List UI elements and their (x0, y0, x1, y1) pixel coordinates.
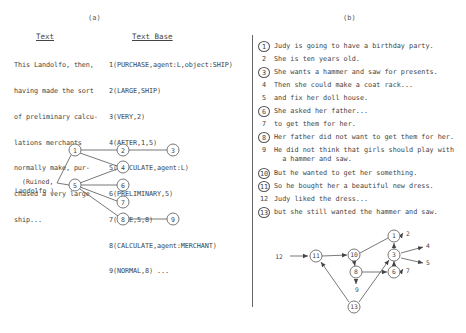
node-1: 1 (73, 147, 77, 155)
root-label-line2: Landolfo ) (15, 187, 54, 195)
sentence-number: 1 (258, 41, 270, 52)
node-5: 5 (73, 182, 77, 190)
sentence-text: So he bought her a beautiful new dress. (274, 182, 434, 190)
sentence-text: She asked her father... (274, 107, 368, 115)
sentence-8: 8Her father did not want to get them for… (258, 131, 454, 143)
sentence-13: 13but she still wanted the hammer and sa… (258, 206, 438, 218)
sentence-text: She is ten years old. (274, 55, 360, 63)
label-9: 9 (355, 286, 359, 293)
sentence-number: 3 (258, 67, 270, 78)
sentence-number: 10 (258, 168, 270, 179)
sentence-number: 11 (258, 181, 270, 192)
sentence-text: Judy is going to have a birthday party. (274, 42, 434, 50)
root-label-line1: (Ruined, (22, 178, 53, 186)
sentence-text: but she still wanted the hammer and saw. (274, 208, 438, 216)
sentence-5: 5and fix her doll house. (258, 92, 368, 104)
sentence-text: Then she could make a coat rack... (274, 81, 413, 89)
sentence-number: 7 (258, 119, 270, 130)
panel-b-label: (b) (343, 14, 356, 22)
node-6: 6 (121, 182, 125, 190)
sentence-text: She wants a hammer and saw for presents. (274, 68, 438, 76)
node-13: 13 (350, 303, 358, 310)
node-8: 8 (354, 268, 358, 275)
node-11: 11 (312, 252, 320, 259)
sentence-7: 7to get them for her. (258, 118, 356, 130)
label-12: 12 (275, 253, 283, 260)
label-2: 2 (406, 230, 410, 237)
sentence-number: 12 (258, 194, 270, 205)
sentence-text: But he wanted to get her something. (274, 169, 417, 177)
node-6: 6 (392, 268, 396, 275)
sentence-number: 6 (258, 106, 270, 117)
sentence-number: 2 (258, 54, 270, 65)
sentence-number: 5 (258, 93, 270, 104)
node-2: 2 (121, 147, 125, 155)
sentence-12: 12Judy liked the dress... (258, 193, 368, 205)
node-8: 8 (121, 216, 125, 224)
sentence-number: 9 (258, 145, 270, 156)
sentence-text: Her father did not want to get them for … (274, 133, 454, 141)
causal-graph-b: 11 10 8 13 1 3 6 12 9 4 5 2 7 (253, 220, 466, 333)
sentence-10: 10But he wanted to get her something. (258, 167, 417, 179)
sentence-text: to get them for her. (274, 120, 356, 128)
sentence-1: 1Judy is going to have a birthday party. (258, 40, 434, 52)
sentence-text: and fix her doll house. (274, 94, 368, 102)
label-7: 7 (406, 267, 410, 274)
node-1: 1 (392, 232, 396, 239)
label-4: 4 (426, 242, 430, 249)
node-7: 7 (121, 199, 125, 207)
node-9: 9 (171, 216, 175, 224)
sentence-4: 4Then she could make a coat rack... (258, 79, 413, 91)
sentence-number: 4 (258, 80, 270, 91)
sentence-text: Judy liked the dress... (274, 195, 368, 203)
node-10: 10 (350, 251, 358, 258)
sentence-11: 11So he bought her a beautiful new dress… (258, 180, 434, 192)
sentence-9-continuation: a hammer and saw. (274, 153, 352, 165)
label-5: 5 (426, 259, 430, 266)
sentence-number: 13 (258, 207, 270, 218)
node-3: 3 (392, 251, 396, 258)
node-4: 4 (121, 164, 125, 172)
node-3: 3 (171, 147, 175, 155)
coherence-graph-a: 1 2 3 4 5 6 7 8 9 (Ruined, Landolfo ) (0, 0, 252, 333)
sentence-2: 2She is ten years old. (258, 53, 360, 65)
sentence-6: 6She asked her father... (258, 105, 368, 117)
sentence-3: 3She wants a hammer and saw for presents… (258, 66, 438, 78)
sentence-number: 8 (258, 132, 270, 143)
